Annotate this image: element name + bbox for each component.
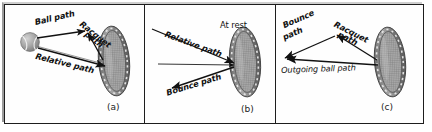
panel-b-letter: (b) (241, 104, 254, 114)
panel-b: At rest Relative path Bounce path (b) (146, 5, 274, 123)
panel-a-letter: (a) (107, 102, 120, 112)
bounce-path-arrow (285, 36, 335, 58)
racquet-icon (372, 26, 409, 98)
panel-b-graphics (146, 5, 274, 123)
panel-divider-2 (275, 5, 276, 123)
at-rest-label: At rest (220, 20, 247, 30)
panel-c: Bounce path Racquet path Outgoing ball p… (277, 5, 423, 123)
panel-divider-1 (144, 5, 145, 123)
tennis-ball-icon (21, 33, 40, 52)
horizontal-reference-arrow (158, 64, 234, 65)
ball-path-arrow (37, 31, 85, 38)
figure-container: Ball path Racquet path Relative path (a)… (0, 0, 432, 132)
panel-a: Ball path Racquet path Relative path (a) (6, 5, 143, 123)
panel-c-letter: (c) (381, 102, 393, 112)
